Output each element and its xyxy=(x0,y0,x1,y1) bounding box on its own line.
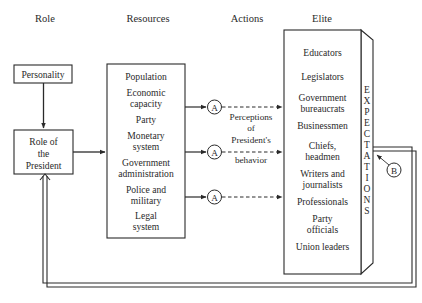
svg-text:President's: President's xyxy=(231,135,271,145)
resource-legal-1: Legal xyxy=(135,210,157,221)
resource-police-1: Police and xyxy=(126,184,166,195)
header-role: Role xyxy=(35,13,55,24)
president-line-2: the xyxy=(38,148,50,159)
svg-text:P: P xyxy=(364,107,369,117)
svg-text:S: S xyxy=(364,206,369,216)
svg-text:of: of xyxy=(247,123,256,133)
svg-text:A: A xyxy=(364,151,371,161)
elite-box: Educators Legislators Government bureauc… xyxy=(284,30,373,274)
elite-party-1: Party xyxy=(312,213,332,224)
svg-text:E: E xyxy=(364,118,370,128)
elite-chiefs-1: Chiefs, xyxy=(309,140,336,151)
expectations-label: E X P E C T A T I O N S xyxy=(364,85,371,216)
president-line-1: Role of xyxy=(29,136,58,147)
svg-text:T: T xyxy=(364,162,370,172)
president-line-3: President xyxy=(26,160,62,171)
svg-text:X: X xyxy=(364,96,371,106)
perceptions-label: Perceptions of President's behavior xyxy=(230,112,273,165)
resource-monetary-2: system xyxy=(133,141,160,152)
elite-party-2: officials xyxy=(307,224,339,235)
role-of-president-box: Role of the President xyxy=(14,130,73,174)
elite-professionals: Professionals xyxy=(297,196,348,207)
resource-population: Population xyxy=(125,71,167,82)
feedback-node-b: B xyxy=(387,163,401,177)
svg-text:E: E xyxy=(364,85,370,95)
elite-chiefs-2: headmen xyxy=(305,151,340,162)
elite-government-1: Government xyxy=(299,92,347,103)
resource-government-2: administration xyxy=(118,168,174,179)
resource-economic-2: capacity xyxy=(130,98,162,109)
header-elite: Elite xyxy=(312,13,332,24)
resource-legal-2: system xyxy=(133,221,160,232)
personality-label: Personality xyxy=(21,69,64,80)
elite-writers-2: journalists xyxy=(302,179,343,190)
svg-text:B: B xyxy=(391,166,397,176)
svg-text:N: N xyxy=(364,195,371,205)
action-node-a2: A xyxy=(208,145,222,159)
header-resources: Resources xyxy=(126,13,169,24)
elite-government-2: bureaucrats xyxy=(300,103,344,114)
elite-educators: Educators xyxy=(303,47,342,58)
b-pointer-arrow xyxy=(377,155,389,165)
resource-government-1: Government xyxy=(122,157,170,168)
svg-text:A: A xyxy=(211,103,218,113)
action-node-a3: A xyxy=(208,190,222,204)
svg-text:Perceptions: Perceptions xyxy=(230,112,273,122)
elite-legislators: Legislators xyxy=(301,71,344,82)
svg-text:C: C xyxy=(364,129,370,139)
elite-businessmen: Businessmen xyxy=(297,120,348,131)
personality-box: Personality xyxy=(14,65,72,83)
resources-box: Population Economic capacity Party Monet… xyxy=(107,64,185,238)
elite-union-leaders: Union leaders xyxy=(296,241,350,252)
svg-text:O: O xyxy=(364,184,371,194)
svg-text:T: T xyxy=(364,140,370,150)
diagram-canvas: Role Resources Actions Elite Personality… xyxy=(0,0,422,303)
resource-economic-1: Economic xyxy=(127,87,166,98)
action-node-a1: A xyxy=(208,100,222,114)
resource-monetary-1: Monetary xyxy=(127,130,165,141)
elite-writers-1: Writers and xyxy=(300,168,345,179)
resource-party: Party xyxy=(136,114,156,125)
svg-text:I: I xyxy=(365,173,368,183)
svg-text:A: A xyxy=(211,193,218,203)
resource-police-2: military xyxy=(131,195,162,206)
svg-text:behavior: behavior xyxy=(235,155,267,165)
header-actions: Actions xyxy=(231,13,264,24)
svg-text:A: A xyxy=(211,148,218,158)
